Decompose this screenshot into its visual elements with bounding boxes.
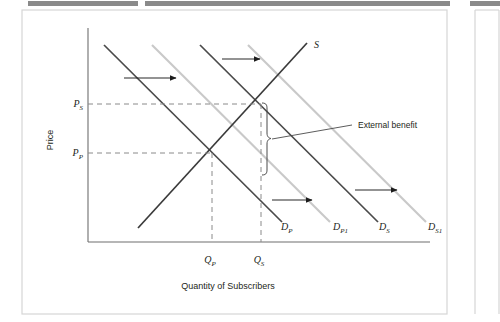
x-tick-labels: QP QS: [204, 254, 265, 268]
y-tick-ps: PS: [72, 98, 83, 112]
chart-axes: [88, 28, 430, 242]
x-tick-qs: QS: [254, 254, 265, 268]
y-tick-labels: PS PP: [72, 98, 84, 161]
demand-curve-dp: [104, 45, 282, 222]
guide-lines: [88, 104, 261, 242]
demand-curve-ds: [200, 45, 378, 222]
y-axis-title: Price: [45, 130, 55, 151]
x-tick-qp: QP: [204, 254, 216, 268]
y-tick-pp: PP: [72, 147, 84, 161]
demand-curve-ds1: [248, 45, 426, 222]
curve-label-dp: DP: [280, 221, 293, 235]
x-axis-title: Quantity of Subscribers: [181, 281, 275, 291]
figure-panel-border: [22, 10, 447, 314]
curve-label-ds: DS: [378, 221, 390, 235]
external-benefit-label: External benefit: [358, 120, 418, 130]
supply-demand-chart: External benefit S DP DP1 DS DS1 PS: [0, 0, 500, 322]
curve-label-s: S: [314, 39, 319, 50]
curve-label-ds1: DS1: [427, 221, 442, 235]
side-panel-border: [475, 10, 499, 314]
curve-label-dp1: DP1: [332, 221, 348, 235]
page-top-bars: [28, 1, 500, 6]
figure-canvas: External benefit S DP DP1 DS DS1 PS: [0, 0, 500, 322]
